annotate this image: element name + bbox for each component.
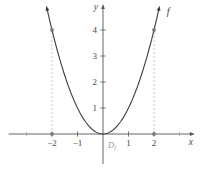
parabola-chart: −2−1121234yxfDf [0,0,202,171]
y-tick-label: 4 [93,25,98,35]
y-axis-label: y [93,2,99,12]
x-tick-label: 2 [152,138,157,148]
marked-point [50,28,54,32]
marked-point [50,132,54,136]
marked-point [152,28,156,32]
chart-background [0,0,202,171]
x-tick-label: −1 [73,138,83,148]
x-tick-label: 1 [126,138,131,148]
x-tick-label: −2 [47,138,57,148]
y-tick-label: 3 [93,51,98,61]
parabola-figure: −2−1121234yxfDf [0,0,202,171]
x-axis-label: x [188,137,194,147]
marked-point [152,132,156,136]
y-tick-label: 2 [93,77,98,87]
y-tick-label: 1 [93,103,98,113]
